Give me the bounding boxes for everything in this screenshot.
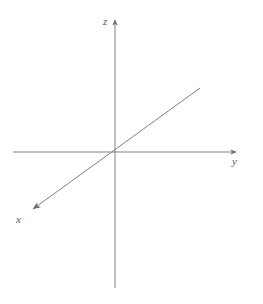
x-axis-label: x	[16, 214, 21, 225]
z-axis-label: z	[103, 16, 107, 27]
y-axis-label: y	[232, 156, 237, 167]
x-axis-line	[33, 88, 200, 209]
diagram-canvas: z y x	[0, 0, 263, 304]
coordinate-axes-figure	[0, 0, 263, 304]
